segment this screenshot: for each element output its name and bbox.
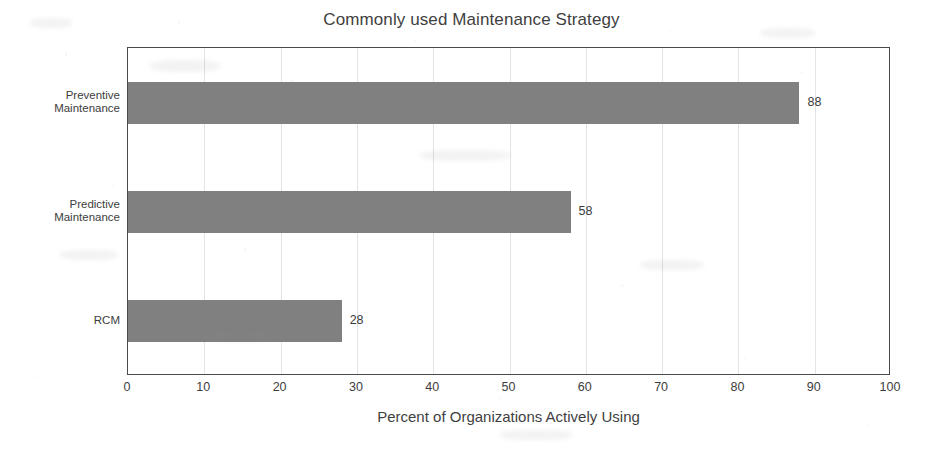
y-axis-category-labels: Preventive MaintenancePredictive Mainten…: [8, 47, 120, 375]
bar-value-label: 58: [579, 205, 593, 218]
bar: [128, 82, 799, 124]
bar: [128, 300, 342, 342]
bar-value-label: 28: [350, 314, 364, 327]
y-axis-category-label: RCM: [8, 314, 120, 327]
y-axis-category-label: Predictive Maintenance: [8, 198, 120, 224]
x-axis-tick-labels: 0102030405060708090100: [127, 380, 890, 400]
x-tick-label: 0: [124, 380, 131, 394]
x-tick-label: 90: [807, 380, 821, 394]
bar: [128, 191, 571, 233]
x-tick-label: 10: [196, 380, 210, 394]
x-tick-label: 20: [273, 380, 287, 394]
x-axis-title: Percent of Organizations Actively Using: [127, 408, 890, 425]
x-tick-label: 60: [578, 380, 592, 394]
bar-value-label: 88: [807, 96, 821, 109]
x-tick-label: 30: [349, 380, 363, 394]
x-tick-label: 50: [502, 380, 516, 394]
x-tick-label: 70: [654, 380, 668, 394]
plot-area: [127, 47, 890, 375]
x-tick-label: 100: [880, 380, 901, 394]
bar-chart-figure: Commonly used Maintenance Strategy Preve…: [0, 0, 943, 453]
x-tick-label: 40: [425, 380, 439, 394]
chart-title: Commonly used Maintenance Strategy: [0, 10, 943, 30]
y-axis-category-label: Preventive Maintenance: [8, 89, 120, 115]
x-tick-label: 80: [730, 380, 744, 394]
scan-smudge: [500, 430, 572, 440]
